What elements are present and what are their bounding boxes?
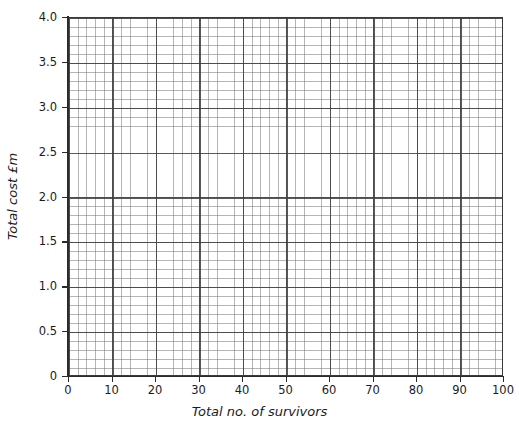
grid-lines [69, 18, 502, 375]
y-axis-tick-label: 2.5 [39, 145, 57, 159]
x-axis-title: Total no. of survivors [0, 404, 519, 419]
x-axis-tick [460, 377, 461, 382]
x-axis-tick-label: 50 [278, 383, 293, 397]
y-axis-title-wrap: Total cost £m [2, 17, 24, 376]
x-axis-tick [416, 377, 417, 382]
y-axis-tick-label: 0.5 [39, 324, 57, 338]
y-axis-title: Total cost £m [6, 153, 21, 240]
y-axis-tick [62, 17, 67, 18]
chart-container: 0 10 20 30 40 50 60 70 80 90 100 0 0.5 1… [0, 0, 519, 440]
y-axis-tick-label: 3.5 [39, 55, 57, 69]
plot-area [68, 17, 503, 376]
x-axis-tick-label: 70 [365, 383, 380, 397]
x-axis-tick-label: 60 [322, 383, 337, 397]
y-axis-tick-label: 3.0 [39, 100, 57, 114]
y-axis-tick [62, 331, 67, 332]
x-axis-tick-label: 90 [452, 383, 467, 397]
x-axis-tick [329, 377, 330, 382]
x-axis-tick [68, 377, 69, 382]
x-axis-tick [155, 377, 156, 382]
y-axis-tick [62, 152, 67, 153]
y-axis-tick [62, 286, 67, 287]
y-axis-tick [62, 376, 67, 377]
y-axis-tick [62, 197, 67, 198]
y-axis-tick-label: 4.0 [39, 10, 57, 24]
y-axis-tick [62, 62, 67, 63]
x-axis-tick-label: 10 [104, 383, 119, 397]
x-axis-tick-label: 80 [409, 383, 424, 397]
y-axis-tick-label: 2.0 [39, 190, 57, 204]
y-axis-tick-label: 0 [50, 369, 57, 383]
x-axis-tick [242, 377, 243, 382]
y-axis-tick [62, 241, 67, 242]
x-axis-tick [286, 377, 287, 382]
x-axis-tick [112, 377, 113, 382]
x-axis-tick-label: 40 [235, 383, 250, 397]
y-axis-tick-label: 1.0 [39, 279, 57, 293]
y-axis-tick-label: 1.5 [39, 234, 57, 248]
x-axis-tick-label: 30 [191, 383, 206, 397]
x-axis-tick-label: 100 [492, 383, 514, 397]
y-axis-line [67, 16, 69, 377]
x-axis-tick [503, 377, 504, 382]
x-axis-tick [373, 377, 374, 382]
y-axis-tick [62, 107, 67, 108]
x-axis-tick-label: 20 [148, 383, 163, 397]
x-axis-tick-label: 0 [64, 383, 71, 397]
x-axis-tick [199, 377, 200, 382]
